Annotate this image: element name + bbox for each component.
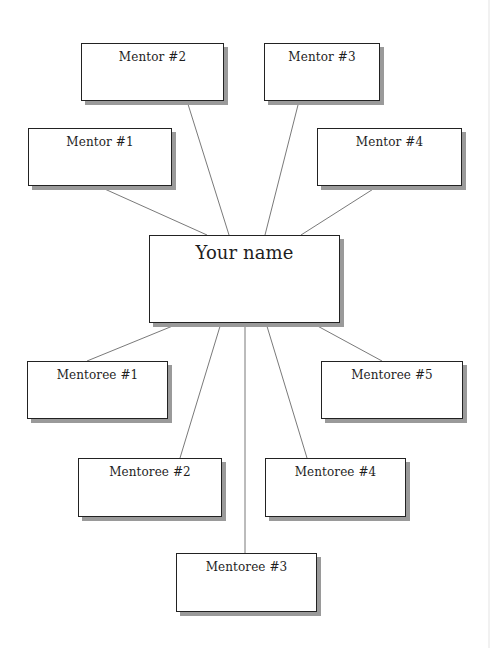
mentoree-label: Mentoree #4 <box>266 459 405 479</box>
mentoree-label: Mentoree #5 <box>322 362 462 382</box>
mentor-node-1[interactable]: Mentor #1 <box>28 128 172 186</box>
mentor-label: Mentor #3 <box>265 44 379 64</box>
connector-line-mentoree-5 <box>312 323 382 361</box>
connector-line-mentoree-1 <box>87 323 180 361</box>
mentoree-label: Mentoree #1 <box>28 362 167 382</box>
connector-line-mentor-1 <box>98 186 207 235</box>
mentoree-node-1[interactable]: Mentoree #1 <box>27 361 168 419</box>
mentoree-label: Mentoree #3 <box>177 554 316 574</box>
connector-lines <box>0 0 490 648</box>
mentor-node-4[interactable]: Mentor #4 <box>317 128 462 186</box>
mentoree-label: Mentoree #2 <box>79 459 221 479</box>
mentor-node-3[interactable]: Mentor #3 <box>264 43 380 101</box>
connector-line-mentor-4 <box>301 186 378 235</box>
mentoree-node-3[interactable]: Mentoree #3 <box>176 553 317 612</box>
mentor-node-2[interactable]: Mentor #2 <box>81 43 224 101</box>
connector-line-mentoree-2 <box>180 323 221 458</box>
mentor-label: Mentor #4 <box>318 129 461 149</box>
mentoree-node-4[interactable]: Mentoree #4 <box>265 458 406 517</box>
center-label: Your name <box>150 236 339 263</box>
center-node-your-name[interactable]: Your name <box>149 235 340 323</box>
mentoree-node-5[interactable]: Mentoree #5 <box>321 361 463 419</box>
connector-line-mentoree-4 <box>266 323 307 458</box>
mentor-label: Mentor #2 <box>82 44 223 64</box>
connector-line-mentor-3 <box>265 101 299 235</box>
mentor-label: Mentor #1 <box>29 129 171 149</box>
mentoree-node-2[interactable]: Mentoree #2 <box>78 458 222 517</box>
connector-line-mentor-2 <box>187 101 229 235</box>
